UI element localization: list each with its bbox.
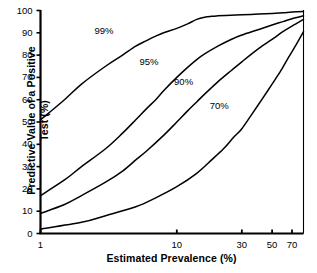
axes-lines bbox=[40, 10, 304, 234]
curve-label-70pct: 70% bbox=[210, 100, 229, 111]
x-tick-label: 10 bbox=[166, 239, 188, 250]
y-tick-label: 100 bbox=[11, 5, 33, 16]
y-tick-label: 50 bbox=[11, 116, 33, 127]
curve-label-99pct: 99% bbox=[95, 25, 114, 36]
x-tick-label: 50 bbox=[261, 239, 283, 250]
y-tick-label: 80 bbox=[11, 49, 33, 60]
x-tick-label: 1 bbox=[30, 239, 52, 250]
y-tick-label: 0 bbox=[11, 228, 33, 239]
curve-label-90pct: 90% bbox=[174, 76, 193, 87]
curve-70pct bbox=[41, 32, 304, 229]
x-tick-label: 70 bbox=[281, 239, 303, 250]
y-tick-label: 30 bbox=[11, 161, 33, 172]
y-tick-label: 10 bbox=[11, 205, 33, 216]
curve-label-95pct: 95% bbox=[139, 56, 158, 67]
curve-90pct bbox=[41, 19, 304, 213]
x-tick-label: 30 bbox=[231, 239, 253, 250]
chart-figure: Predictive Value of a Positive Test (%) … bbox=[0, 0, 317, 273]
y-tick-label: 60 bbox=[11, 94, 33, 105]
y-tick-label: 70 bbox=[11, 71, 33, 82]
curve-95pct bbox=[41, 16, 304, 196]
y-tick-label: 90 bbox=[11, 27, 33, 38]
y-tick-label: 20 bbox=[11, 183, 33, 194]
x-axis-title: Estimated Prevalence (%) bbox=[40, 252, 303, 264]
y-axis-title-line2: Test (%) bbox=[37, 26, 50, 216]
data-curves bbox=[41, 11, 304, 229]
y-tick-label: 40 bbox=[11, 138, 33, 149]
